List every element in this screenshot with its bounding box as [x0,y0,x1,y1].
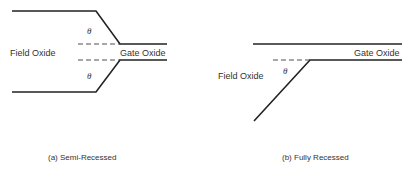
theta-top-a: θ [87,27,91,36]
field-oxide-label-b: Field Oxide [218,72,264,81]
caption-b: (b) Fully Recessed [282,154,349,162]
gate-oxide-label-b: Gate Oxide [354,49,400,58]
gate-oxide-label-a: Gate Oxide [120,49,166,58]
oxide-profile-diagrams [0,0,407,172]
field-oxide-label-a: Field Oxide [10,49,56,58]
theta-b: θ [283,67,287,76]
theta-bottom-a: θ [87,72,91,81]
caption-a: (a) Semi-Recessed [48,154,116,162]
